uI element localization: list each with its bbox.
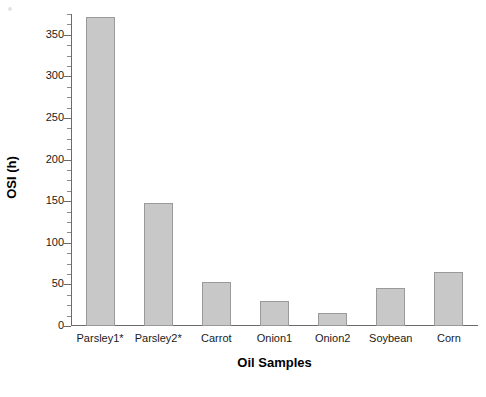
y-axis-tick-label: 50 [52, 278, 64, 289]
bar-series [71, 14, 478, 326]
bar [144, 203, 173, 326]
x-axis-tick-label: Corn [420, 332, 478, 345]
bar [318, 313, 347, 326]
y-axis-major-tick [64, 326, 71, 327]
x-axis-tick-label: Onion1 [245, 332, 303, 345]
bar [376, 288, 405, 326]
y-axis-major-tick [64, 284, 71, 285]
y-axis-tick-label: 250 [46, 112, 64, 123]
scan-artifact-speck [8, 7, 12, 11]
y-axis-major-tick [64, 118, 71, 119]
y-axis-major-tick [64, 160, 71, 161]
bar-chart: 050100150200250300350 Parsley1*Parsley2*… [0, 0, 486, 397]
x-axis-tick-label: Parsley2* [129, 332, 187, 345]
y-axis-major-tick [64, 201, 71, 202]
bar [260, 301, 289, 326]
y-axis-major-tick [64, 35, 71, 36]
y-axis-tick-label: 100 [46, 237, 64, 248]
bar [202, 282, 231, 326]
y-axis-title: OSI (h) [4, 145, 19, 211]
x-axis-tick-label: Onion2 [304, 332, 362, 345]
y-axis-tick-label: 0 [58, 320, 64, 331]
x-axis-tick-label: Parsley1* [71, 332, 129, 345]
y-axis-tick-labels: 050100150200250300350 [26, 14, 64, 326]
y-axis-major-tick [64, 76, 71, 77]
x-axis-title: Oil Samples [71, 355, 478, 370]
y-axis-tick-label: 300 [46, 70, 64, 81]
x-axis-tick-label: Carrot [187, 332, 245, 345]
x-axis-tick-labels: Parsley1*Parsley2*CarrotOnion1Onion2Soyb… [71, 332, 478, 350]
y-axis-tick-label: 200 [46, 154, 64, 165]
bar [434, 272, 463, 326]
bar [86, 17, 115, 327]
y-axis-major-tick [64, 243, 71, 244]
x-axis-tick-label: Soybean [362, 332, 420, 345]
y-axis-tick-label: 350 [46, 29, 64, 40]
y-axis-tick-label: 150 [46, 195, 64, 206]
